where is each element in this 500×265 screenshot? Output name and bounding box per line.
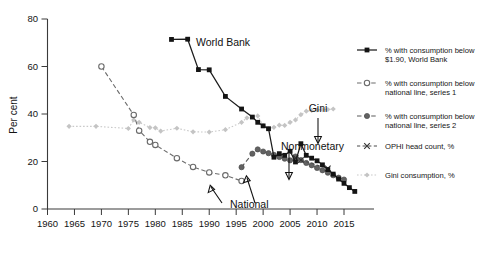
marker-diamond bbox=[255, 113, 260, 118]
annotation-nonmonetary: Nonmonetary bbox=[281, 140, 345, 152]
marker-filled-circle bbox=[287, 158, 292, 163]
x-tick-label-1970: 1970 bbox=[91, 218, 112, 229]
marker-square bbox=[315, 158, 320, 163]
legend-item-2: % with consumption belownational line, s… bbox=[357, 112, 475, 130]
legend-item-3: OPHI head count, % bbox=[357, 142, 454, 151]
legend-label-0: % with consumption below bbox=[385, 46, 475, 55]
marker-filled-circle bbox=[255, 147, 260, 152]
legend-label-2: % with consumption below bbox=[385, 112, 475, 121]
marker-square bbox=[272, 155, 277, 160]
marker-diamond bbox=[66, 124, 71, 129]
marker-open-circle bbox=[99, 64, 104, 69]
x-tick-label-1995: 1995 bbox=[226, 218, 247, 229]
x-tick-label-1990: 1990 bbox=[199, 218, 220, 229]
chart-svg: Per cent 020406080 196019651970197519801… bbox=[0, 0, 500, 265]
legend-label-3: OPHI head count, % bbox=[385, 142, 454, 151]
legend-label-0-line2: $1.90, World Bank bbox=[385, 55, 448, 64]
y-tick-label-60: 60 bbox=[27, 61, 38, 72]
chart-container: Per cent 020406080 196019651970197519801… bbox=[0, 0, 500, 265]
marker-diamond bbox=[174, 126, 179, 131]
series-national_2 bbox=[239, 147, 347, 182]
legend-item-4: Gini consumption, % bbox=[357, 171, 455, 180]
marker-diamond bbox=[271, 125, 276, 130]
marker-square bbox=[282, 153, 287, 158]
series-gini bbox=[66, 106, 335, 134]
legend-item-1: % with consumption belownational line, s… bbox=[357, 79, 475, 97]
marker-diamond bbox=[282, 123, 287, 128]
marker-square bbox=[293, 160, 298, 165]
marker-square bbox=[347, 185, 352, 190]
marker-filled-circle bbox=[261, 149, 266, 154]
x-tick-label-1975: 1975 bbox=[118, 218, 139, 229]
marker-open-circle bbox=[136, 128, 141, 133]
chart-legend: % with consumption below$1.90, World Ban… bbox=[357, 46, 475, 180]
marker-square bbox=[320, 162, 325, 167]
series-national_1 bbox=[99, 64, 245, 184]
legend-label-1: % with consumption below bbox=[385, 79, 475, 88]
marker-diamond bbox=[153, 125, 158, 130]
marker-diamond bbox=[287, 120, 292, 125]
x-tick-label-2000: 2000 bbox=[253, 218, 274, 229]
marker-diamond bbox=[239, 120, 244, 125]
series-layer bbox=[66, 37, 357, 194]
y-tick-label-0: 0 bbox=[33, 203, 38, 214]
marker-filled-circle bbox=[250, 151, 255, 156]
marker-diamond bbox=[277, 123, 282, 128]
legend-label-4: Gini consumption, % bbox=[385, 171, 455, 180]
marker-square bbox=[365, 48, 370, 53]
marker-square bbox=[304, 153, 309, 158]
marker-open-circle bbox=[131, 112, 136, 117]
marker-filled-circle bbox=[266, 151, 271, 156]
legend-label-1-line2: national line, series 1 bbox=[385, 88, 456, 97]
x-tick-label-1985: 1985 bbox=[172, 218, 193, 229]
marker-open-circle bbox=[223, 173, 228, 178]
x-tick-label-1960: 1960 bbox=[37, 218, 58, 229]
marker-square bbox=[352, 189, 357, 194]
marker-diamond bbox=[190, 129, 195, 134]
marker-square bbox=[325, 167, 330, 172]
marker-filled-circle bbox=[239, 165, 244, 170]
marker-square bbox=[169, 37, 174, 42]
x-tick-label-2010: 2010 bbox=[306, 218, 327, 229]
marker-diamond bbox=[207, 129, 212, 134]
series-line-national_1 bbox=[101, 67, 241, 181]
marker-diamond bbox=[331, 106, 336, 111]
marker-square bbox=[239, 107, 244, 112]
marker-diamond bbox=[93, 124, 98, 129]
annotation-gini: Gini bbox=[309, 102, 328, 114]
marker-open-circle bbox=[207, 170, 212, 175]
marker-square bbox=[255, 120, 260, 125]
marker-square bbox=[309, 156, 314, 161]
x-tick-label-2005: 2005 bbox=[280, 218, 301, 229]
marker-square bbox=[266, 126, 271, 131]
y-tick-label-20: 20 bbox=[27, 156, 38, 167]
series-world_bank bbox=[169, 37, 357, 194]
marker-square bbox=[250, 115, 255, 120]
x-tick-label-1980: 1980 bbox=[145, 218, 166, 229]
x-tick-label-2015: 2015 bbox=[333, 218, 354, 229]
marker-diamond bbox=[147, 125, 152, 130]
national2-arrowhead bbox=[243, 176, 250, 183]
marker-diamond bbox=[126, 126, 131, 131]
x-axis-ticks: 1960196519701975198019851990199520002005… bbox=[37, 209, 355, 229]
annotation-national: National bbox=[230, 198, 269, 210]
marker-filled-circle bbox=[364, 113, 369, 118]
marker-open-circle bbox=[174, 155, 179, 160]
y-tick-label-80: 80 bbox=[27, 13, 38, 24]
marker-square bbox=[342, 181, 347, 186]
marker-square bbox=[336, 177, 341, 182]
marker-square bbox=[331, 172, 336, 177]
y-tick-label-40: 40 bbox=[27, 108, 38, 119]
marker-diamond bbox=[364, 172, 369, 177]
marker-square bbox=[223, 94, 228, 99]
marker-square bbox=[196, 67, 201, 72]
marker-diamond bbox=[223, 127, 228, 132]
legend-label-2-line2: national line, series 2 bbox=[385, 121, 456, 130]
marker-square bbox=[207, 67, 212, 72]
marker-filled-circle bbox=[304, 160, 309, 165]
y-axis-ticks: 020406080 bbox=[27, 13, 47, 214]
marker-open-circle bbox=[147, 139, 152, 144]
marker-square bbox=[185, 37, 190, 42]
annotation-world-bank: World Bank bbox=[196, 36, 251, 48]
marker-square bbox=[261, 123, 266, 128]
